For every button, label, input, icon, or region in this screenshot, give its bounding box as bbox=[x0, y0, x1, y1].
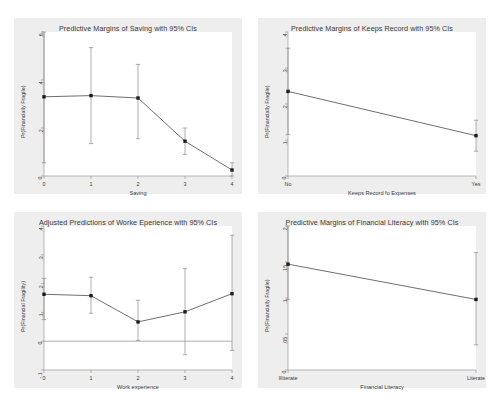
chart-svg-financial-literacy bbox=[0, 0, 495, 420]
figure-canvas: Predictive Margins of Saving with 95% CI… bbox=[0, 0, 495, 420]
y-tick-label: .2 bbox=[281, 227, 287, 232]
x-tick-financial-literacy-0: Illiterate bbox=[279, 375, 298, 381]
y-tick-label: .15 bbox=[281, 265, 287, 273]
data-point bbox=[474, 298, 477, 301]
y-tick-label: .1 bbox=[281, 299, 287, 304]
y-tick-label: .05 bbox=[281, 337, 287, 345]
y-tick-label: 0 bbox=[281, 371, 287, 374]
x-tick-financial-literacy-1: Literate bbox=[467, 375, 485, 381]
series-line bbox=[288, 264, 476, 299]
